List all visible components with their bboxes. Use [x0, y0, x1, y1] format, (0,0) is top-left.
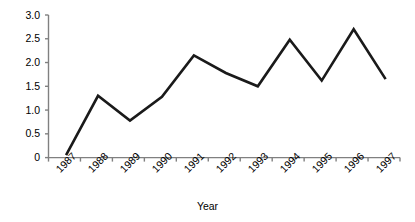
- x-axis-tick-label: 1997: [374, 150, 398, 174]
- x-axis-tick-label: 1987: [54, 150, 78, 174]
- x-axis-tick-label: 1992: [214, 150, 238, 174]
- x-axis-title: Year: [0, 200, 415, 212]
- x-axis-tick-labels: 1987198819891990199119921993199419951996…: [0, 0, 415, 222]
- x-axis-tick-label: 1989: [118, 150, 142, 174]
- x-axis-tick-label: 1995: [310, 150, 334, 174]
- x-axis-tick-label: 1993: [246, 150, 270, 174]
- x-axis-tick-label: 1996: [342, 150, 366, 174]
- x-axis-tick-label: 1990: [150, 150, 174, 174]
- x-axis-tick-label: 1991: [182, 150, 206, 174]
- x-axis-tick-label: 1994: [278, 150, 302, 174]
- x-axis-tick-label: 1988: [86, 150, 110, 174]
- line-chart: 00.51.01.52.02.53.0 19871988198919901991…: [0, 0, 415, 222]
